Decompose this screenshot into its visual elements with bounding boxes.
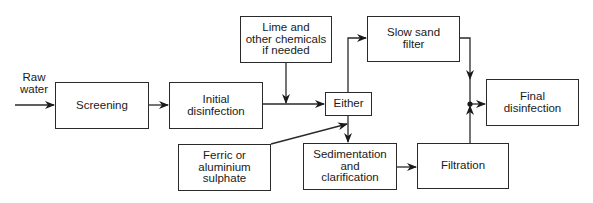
node-slow-sand-filter: Slow sand filter (367, 16, 460, 62)
arrow-slowsand-down (460, 38, 470, 79)
arrow-either-to-slowsand (348, 38, 366, 92)
node-sedimentation: Sedimentation and clarification (303, 143, 397, 190)
node-initial-disinfection: Initial disinfection (169, 82, 263, 129)
node-final-disinfection: Final disinfection (486, 79, 579, 126)
junction-dot (467, 101, 472, 106)
node-screening: Screening (55, 82, 149, 129)
arrow-ferric (271, 124, 347, 144)
node-lime-chemicals: Lime and other chemicals if needed (240, 16, 332, 63)
node-filtration: Filtration (417, 143, 509, 189)
node-either: Either (325, 92, 372, 116)
node-ferric-aluminium-sulphate: Ferric or aluminium sulphate (178, 144, 271, 191)
raw-water-label: Raw water (14, 72, 54, 95)
